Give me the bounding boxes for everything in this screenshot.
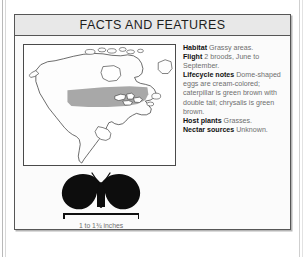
fact-nectar-sources-value: Unknown.	[236, 126, 268, 134]
panel-body: Habitat Grassy areas. Flight 2 broods, J…	[15, 36, 290, 230]
facts-and-features-panel: FACTS AND FEATURES	[14, 14, 291, 230]
scale-caption: 1 to 1¾ inches	[53, 222, 149, 229]
page-background: FACTS AND FEATURES	[0, 0, 305, 257]
specimen-scale-figure: 1 to 1¾ inches	[53, 172, 149, 229]
scale-bar-tick-left	[63, 213, 65, 219]
fact-habitat: Habitat Grassy areas.	[183, 44, 287, 53]
page-edge-rule-left-inner	[5, 0, 6, 257]
hudson-bay	[101, 66, 121, 82]
scale-bar-rule	[63, 213, 139, 215]
fact-nectar-sources-label: Nectar sources	[183, 126, 234, 134]
range-shading-band	[67, 86, 148, 107]
fact-habitat-label: Habitat	[183, 44, 207, 52]
page-edge-rule-left-outer	[2, 0, 3, 257]
fact-habitat-value: Grassy areas.	[209, 44, 253, 52]
greenland-sliver	[158, 60, 172, 74]
fact-flight-label: Flight	[183, 53, 202, 61]
fact-host-plants-label: Host plants	[183, 117, 222, 125]
fact-lifecycle-notes: Lifecycle notes Dome-shaped eggs are cre…	[183, 71, 287, 116]
scale-bar	[63, 213, 139, 219]
page-title: FACTS AND FEATURES	[80, 18, 226, 32]
facts-text-block: Habitat Grassy areas. Flight 2 broods, J…	[183, 44, 287, 135]
panel-title-bar: FACTS AND FEATURES	[15, 15, 290, 36]
fact-host-plants-value: Grasses.	[224, 117, 252, 125]
page-edge-rule-right-outer	[302, 0, 303, 257]
fact-host-plants: Host plants Grasses.	[183, 117, 287, 126]
range-map-graphic	[24, 45, 175, 165]
scale-bar-tick-right	[138, 213, 140, 219]
fact-lifecycle-notes-label: Lifecycle notes	[183, 71, 234, 79]
butterfly-silhouette-icon	[60, 172, 142, 212]
fact-flight: Flight 2 broods, June to September.	[183, 53, 287, 71]
range-map	[23, 44, 176, 166]
page-edge-rule-right-inner	[299, 0, 300, 257]
fact-nectar-sources: Nectar sources Unknown.	[183, 126, 287, 135]
